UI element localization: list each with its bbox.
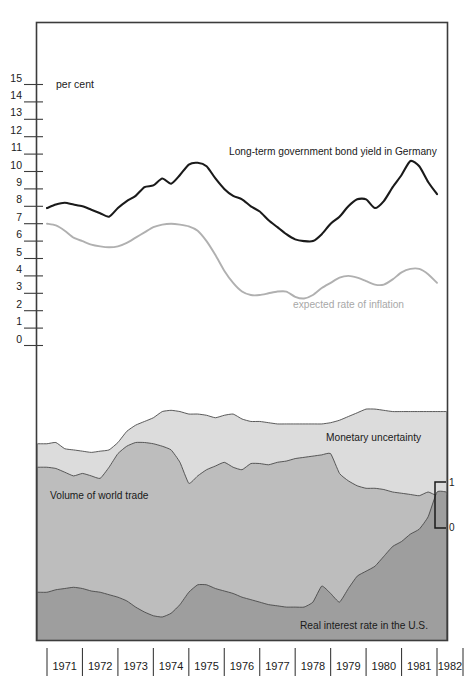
y-tick-label: 1 bbox=[16, 315, 22, 327]
x-tick-label: 1976 bbox=[230, 660, 254, 672]
y-tick-label: 14 bbox=[10, 89, 22, 101]
economic-indicators-chart: 1514131211109876543210 per cent 1 0 1971… bbox=[0, 0, 473, 684]
label-world-trade: Volume of world trade bbox=[50, 490, 149, 501]
x-tick-label: 1980 bbox=[372, 660, 396, 672]
x-tick-label: 1981 bbox=[407, 660, 431, 672]
x-tick-label: 1973 bbox=[123, 660, 147, 672]
x-tick-label: 1982 bbox=[438, 660, 462, 672]
x-tick-label: 1972 bbox=[88, 660, 112, 672]
y-tick-label: 13 bbox=[10, 106, 22, 118]
label-real-interest-rate: Real interest rate in the U.S. bbox=[300, 620, 428, 631]
x-tick-label: 1978 bbox=[301, 660, 325, 672]
bracket-label-one: 1 bbox=[449, 477, 455, 488]
x-tick-label: 1975 bbox=[194, 660, 218, 672]
chart-figure: 1514131211109876543210 per cent 1 0 1971… bbox=[0, 0, 473, 684]
y-tick-label: 12 bbox=[10, 124, 22, 136]
y-tick-label: 15 bbox=[10, 72, 22, 84]
y-tick-label: 11 bbox=[11, 141, 22, 153]
y-tick-label: 4 bbox=[16, 263, 22, 275]
label-bond-yield: Long-term government bond yield in Germa… bbox=[229, 146, 438, 157]
y-tick-label: 0 bbox=[16, 333, 22, 345]
y-tick-label: 8 bbox=[16, 193, 22, 205]
x-tick-label: 1974 bbox=[159, 660, 183, 672]
label-monetary-uncertainty: Monetary uncertainty bbox=[326, 432, 422, 443]
y-tick-label: 5 bbox=[16, 246, 22, 258]
y-tick-label: 9 bbox=[16, 176, 22, 188]
y-tick-label: 6 bbox=[16, 228, 22, 240]
y-tick-label: 7 bbox=[16, 211, 22, 223]
y-axis-unit-label: per cent bbox=[56, 78, 94, 90]
label-expected-inflation: expected rate of inflation bbox=[293, 299, 404, 310]
x-tick-label: 1977 bbox=[265, 660, 289, 672]
bracket-label-zero: 0 bbox=[449, 522, 455, 533]
y-tick-label: 2 bbox=[16, 298, 22, 310]
x-tick-label: 1979 bbox=[336, 660, 360, 672]
y-tick-label: 10 bbox=[10, 159, 22, 171]
x-tick-label: 1971 bbox=[52, 660, 76, 672]
y-tick-label: 3 bbox=[16, 280, 22, 292]
